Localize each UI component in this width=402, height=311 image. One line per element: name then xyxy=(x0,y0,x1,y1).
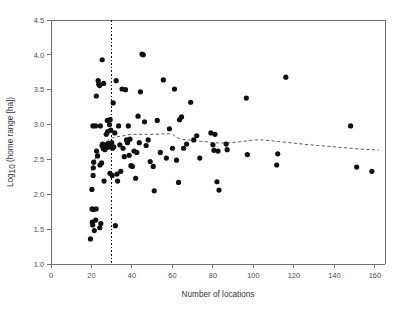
y-tick-label: 1.0 xyxy=(34,260,44,269)
data-point xyxy=(112,130,117,135)
data-point xyxy=(167,126,172,131)
data-point xyxy=(348,123,353,128)
x-tick-label: 100 xyxy=(247,271,259,280)
y-tick-label: 3.0 xyxy=(34,120,44,129)
data-point xyxy=(111,144,116,149)
x-tick-label: 140 xyxy=(328,271,340,280)
data-point xyxy=(91,160,96,165)
data-point xyxy=(133,176,138,181)
data-point xyxy=(225,147,230,152)
y-axis-title-rest: (home range [ha]) xyxy=(6,97,15,165)
data-point xyxy=(126,123,131,128)
y-axis-title: Log10 (home range [ha]) xyxy=(6,97,17,187)
x-axis-title: Number of locations xyxy=(182,290,255,299)
data-point xyxy=(135,114,140,119)
y-tick-label: 2.0 xyxy=(34,190,44,199)
data-points xyxy=(88,52,375,242)
data-point xyxy=(172,86,177,91)
data-point xyxy=(146,137,151,142)
data-point xyxy=(130,164,135,169)
data-point xyxy=(148,159,153,164)
data-point xyxy=(122,154,127,159)
data-point xyxy=(161,77,166,82)
data-point xyxy=(212,132,217,137)
data-point xyxy=(283,75,288,80)
data-point xyxy=(101,178,106,183)
data-point xyxy=(93,217,98,222)
data-point xyxy=(244,95,249,100)
data-point xyxy=(170,146,175,151)
data-point xyxy=(174,158,179,163)
data-point xyxy=(115,178,120,183)
data-point xyxy=(98,123,103,128)
data-point xyxy=(95,153,100,158)
data-point xyxy=(111,100,116,105)
x-tick-label: 60 xyxy=(168,271,176,280)
data-point xyxy=(92,228,97,233)
x-tick-label: 120 xyxy=(288,271,300,280)
data-point xyxy=(179,114,184,119)
data-point xyxy=(89,187,94,192)
x-tick-label: 0 xyxy=(49,271,53,280)
data-point xyxy=(142,119,147,124)
y-tick-label: 3.5 xyxy=(34,85,44,94)
data-point xyxy=(245,152,250,157)
data-point xyxy=(91,165,96,170)
scatter-plot-figure: 0204060801001201401601.01.52.02.53.03.54… xyxy=(0,0,402,311)
data-point xyxy=(134,150,139,155)
y-tick-label: 4.5 xyxy=(34,16,44,25)
data-point xyxy=(158,150,163,155)
data-point xyxy=(127,137,132,142)
data-point xyxy=(191,137,196,142)
y-tick-label: 1.5 xyxy=(34,225,44,234)
data-point xyxy=(176,180,181,185)
data-point xyxy=(108,117,113,122)
data-point xyxy=(224,141,229,146)
data-point xyxy=(99,160,104,165)
data-point xyxy=(118,169,123,174)
data-point xyxy=(369,169,374,174)
data-point xyxy=(90,222,95,227)
plot-canvas: 0204060801001201401601.01.52.02.53.03.54… xyxy=(0,0,402,311)
data-point xyxy=(144,143,149,148)
data-point xyxy=(184,141,189,146)
data-point xyxy=(215,148,220,153)
svg-text:Log10 (home range [ha]): Log10 (home range [ha]) xyxy=(6,97,17,187)
tick-labels: 0204060801001201401601.01.52.02.53.03.54… xyxy=(34,16,381,280)
data-point xyxy=(88,236,93,241)
data-point xyxy=(214,179,219,184)
data-point xyxy=(188,100,193,105)
data-point xyxy=(120,146,125,151)
data-point xyxy=(164,155,169,160)
data-point xyxy=(94,206,99,211)
x-tick-label: 80 xyxy=(209,271,217,280)
data-point xyxy=(354,165,359,170)
data-point xyxy=(116,123,121,128)
x-tick-label: 40 xyxy=(128,271,136,280)
data-point xyxy=(98,221,103,226)
data-point xyxy=(152,188,157,193)
data-point xyxy=(141,52,146,57)
data-point xyxy=(137,140,142,145)
data-point xyxy=(274,162,279,167)
y-tick-label: 4.0 xyxy=(34,51,44,60)
data-point xyxy=(197,155,202,160)
data-point xyxy=(94,148,99,153)
data-point xyxy=(194,133,199,138)
data-point xyxy=(100,57,105,62)
data-point xyxy=(107,122,112,127)
y-axis-title-base: Log xyxy=(6,173,15,187)
x-tick-label: 20 xyxy=(87,271,95,280)
data-point xyxy=(181,146,186,151)
data-point xyxy=(114,78,119,83)
data-point xyxy=(110,173,115,178)
data-point xyxy=(216,188,221,193)
data-point xyxy=(123,87,128,92)
data-point xyxy=(151,164,156,169)
data-point xyxy=(127,153,132,158)
y-tick-label: 2.5 xyxy=(34,155,44,164)
data-point xyxy=(101,81,106,86)
data-point xyxy=(93,123,98,128)
data-point xyxy=(138,89,143,94)
x-tick-label: 160 xyxy=(369,271,381,280)
